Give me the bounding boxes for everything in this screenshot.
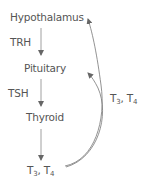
subscript-4: 4 xyxy=(50,170,54,178)
subscript-4: 4 xyxy=(133,98,137,106)
label-trh: TRH xyxy=(10,36,31,48)
label-tsh: TSH xyxy=(8,87,28,99)
t-letter: , T xyxy=(37,164,50,176)
label-feedback-t3-t4: T3, T4 xyxy=(110,92,137,108)
feedback-arrow-to-pituitary xyxy=(66,73,103,167)
node-pituitary: Pituitary xyxy=(24,62,66,74)
node-thyroid: Thyroid xyxy=(26,111,64,123)
t-letter: , T xyxy=(120,92,133,104)
feedback-arrow-to-hypothalamus xyxy=(65,19,102,166)
node-hypothalamus: Hypothalamus xyxy=(10,11,84,23)
node-t3-t4: T3, T4 xyxy=(27,164,54,180)
